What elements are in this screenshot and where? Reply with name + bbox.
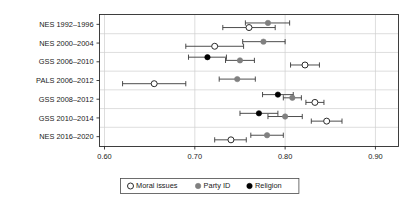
x-tick-label: 0.70 [188, 152, 202, 161]
y-tick-label: PALS 2006–2012 [36, 76, 93, 85]
x-tick-label: 0.90 [368, 152, 382, 161]
y-tick-label: GSS 2008–2012 [39, 95, 94, 104]
legend-label: Party ID [204, 181, 231, 190]
x-tick-label: 0.80 [278, 152, 292, 161]
y-tick-label: NES 1992–1996 [39, 20, 93, 29]
data-point-marker [228, 137, 234, 143]
legend-marker-religion [247, 183, 252, 188]
data-point-marker [261, 39, 266, 44]
y-tick-label: GSS 2006–2010 [39, 57, 94, 66]
data-point-marker [264, 133, 269, 138]
legend-label: Moral issues [136, 181, 178, 190]
data-point-marker [302, 62, 308, 68]
chart-legend: Moral issuesParty IDReligion [121, 179, 299, 194]
legend-marker-party-id [195, 183, 200, 188]
y-tick-label: GSS 2010–2014 [39, 114, 94, 123]
data-point-marker [256, 111, 261, 116]
data-point-marker [237, 58, 242, 63]
data-point-marker [275, 92, 280, 97]
data-point-marker [324, 118, 330, 124]
dot-plot-svg: 0.600.700.800.90 NES 1992–1996NES 2000–2… [0, 0, 419, 210]
data-point-marker [290, 95, 295, 100]
data-point-marker [265, 20, 270, 25]
y-tick-label: NES 2016–2020 [39, 132, 93, 141]
chart-figure: 0.600.700.800.90 NES 1992–1996NES 2000–2… [0, 0, 419, 210]
y-tick-label: NES 2000–2004 [39, 39, 93, 48]
data-point-marker [282, 114, 287, 119]
data-point-marker [151, 81, 157, 87]
data-point-marker [246, 25, 252, 31]
data-point-marker [312, 99, 318, 105]
legend-marker-moral-issues [128, 183, 134, 189]
data-point-marker [212, 43, 218, 49]
legend-label: Religion [255, 181, 282, 190]
x-tick-label: 0.60 [97, 152, 111, 161]
data-point-marker [205, 54, 210, 59]
data-point-marker [235, 76, 240, 81]
